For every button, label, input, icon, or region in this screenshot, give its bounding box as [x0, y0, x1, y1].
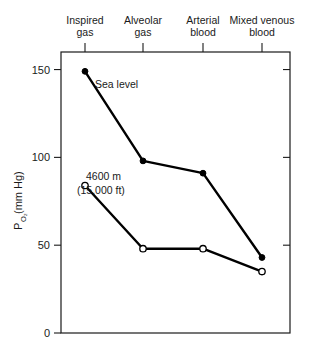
data-point-s0-3: [259, 255, 265, 261]
category-label-0-line-1: gas: [77, 26, 94, 38]
annotation-sea-level: Sea level: [95, 78, 138, 90]
category-label-2-line-0: Arterial: [186, 14, 219, 26]
y-tick-label-0: 0: [44, 327, 50, 339]
data-point-s0-0: [82, 68, 88, 74]
annotation-sea-level-label: Sea level: [95, 78, 138, 90]
y-axis-tick-marks: [54, 70, 61, 333]
category-label-3-line-0: Mixed venous: [230, 14, 295, 26]
y-axis-tick-labels: 050100150: [32, 64, 50, 339]
annotation-altitude-line2: (15,000 ft): [77, 184, 125, 196]
annotation-altitude-line1: 4600 m: [86, 170, 121, 182]
y-tick-label-50: 50: [38, 239, 50, 251]
series-line-0: [85, 71, 262, 257]
category-label-2-line-1: blood: [190, 26, 216, 38]
po2-cascade-chart: InspiredgasAlveolargasArterialbloodMixed…: [0, 0, 313, 352]
y-axis-title-unit: (mm Hg): [12, 171, 24, 214]
category-label-1-line-1: gas: [135, 26, 152, 38]
data-point-s1-2: [200, 246, 206, 252]
data-point-s0-1: [140, 158, 146, 164]
y-axis-title: P O₂ (mm Hg): [12, 171, 28, 230]
y-tick-label-150: 150: [32, 64, 50, 76]
chart-figure: InspiredgasAlveolargasArterialbloodMixed…: [0, 0, 313, 352]
y-axis-tick-marks-right: [283, 70, 290, 246]
y-tick-label-100: 100: [32, 151, 50, 163]
data-point-s1-3: [259, 268, 265, 274]
y-axis-title-main: P: [12, 223, 24, 230]
data-point-s1-1: [140, 246, 146, 252]
series-line-1: [85, 185, 262, 271]
category-tick-marks: [85, 43, 262, 52]
category-label-3-line-1: blood: [249, 26, 275, 38]
category-label-0-line-0: Inspired: [66, 14, 104, 26]
category-axis-labels: InspiredgasAlveolargasArterialbloodMixed…: [66, 14, 294, 38]
data-point-s0-2: [200, 170, 206, 176]
category-label-1-line-0: Alveolar: [124, 14, 162, 26]
